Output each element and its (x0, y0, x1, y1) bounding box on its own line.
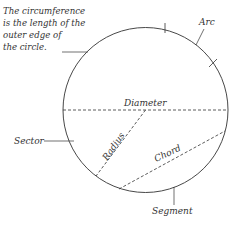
chord-label: Chord (153, 143, 183, 164)
circumference-note: The circumference is the length of the o… (3, 6, 88, 52)
note-line-4: the circle. (3, 42, 47, 52)
diameter-label: Diameter (123, 98, 167, 108)
circle-parts-diagram: The circumference is the length of the o… (0, 0, 231, 227)
arc-leader (196, 29, 204, 45)
note-line-3: outer edge of (3, 30, 63, 40)
note-line-1: The circumference (3, 6, 85, 16)
note-line-2: is the length of the (3, 18, 85, 28)
arc-tick-end (209, 59, 217, 67)
chord-line (119, 131, 225, 189)
arc-label: Arc (198, 17, 215, 27)
sector-label: Sector (14, 136, 45, 146)
radius-label: Radius (100, 130, 127, 163)
segment-label: Segment (152, 206, 193, 216)
